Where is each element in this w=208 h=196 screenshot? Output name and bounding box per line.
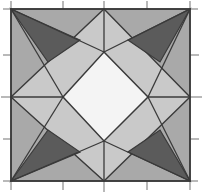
figure-container	[0, 0, 208, 196]
geometric-pattern-figure	[0, 0, 208, 196]
